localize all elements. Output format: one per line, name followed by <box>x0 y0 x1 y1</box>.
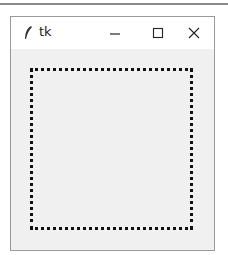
title-bar[interactable]: tk <box>11 17 214 49</box>
close-button[interactable] <box>172 17 216 49</box>
tk-window: tk <box>10 16 215 251</box>
tk-feather-icon <box>23 25 33 41</box>
minimize-button[interactable] <box>93 17 137 49</box>
minimize-icon <box>109 27 121 39</box>
canvas-area[interactable] <box>11 49 214 250</box>
close-icon <box>188 27 200 39</box>
window-title: tk <box>39 24 52 39</box>
screen-edge-line <box>0 3 228 5</box>
maximize-icon <box>152 27 164 39</box>
dotted-rectangle <box>30 68 193 230</box>
